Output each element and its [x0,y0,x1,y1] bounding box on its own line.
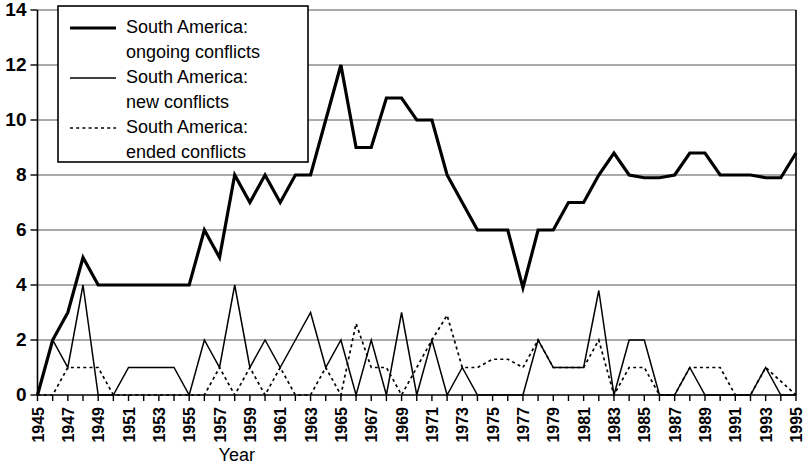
x-tick-label: 1947 [60,407,77,443]
x-tick-label: 1959 [242,407,259,443]
x-tick-label: 1985 [636,407,653,443]
x-axis-title: Year [219,445,255,465]
legend-label-line1: South America: [126,117,248,137]
x-tick-label: 1983 [606,407,623,443]
legend-label-line1: South America: [126,17,248,37]
x-tick-label: 1949 [90,407,107,443]
legend-label-line2: ongoing conflicts [126,42,260,62]
x-tick-label: 1977 [515,407,532,443]
legend-label-line1: South America: [126,67,248,87]
x-tick-label: 1995 [788,407,805,443]
x-tick-label: 1957 [212,407,229,443]
x-tick-label: 1973 [454,407,471,443]
legend-label-line2: ended conflicts [126,142,246,162]
y-tick-label: 10 [5,109,26,130]
y-tick-label: 14 [5,0,27,20]
x-tick-label: 1979 [545,407,562,443]
x-tick-label: 1971 [424,407,441,443]
y-tick-label: 8 [16,164,27,185]
x-tick-label: 1993 [758,407,775,443]
series-line-3 [38,315,797,395]
line-chart: 0246810121419451947194919511953195519571… [0,0,809,468]
x-tick-label: 1963 [303,407,320,443]
x-tick-label: 1955 [181,407,198,443]
y-tick-label: 12 [5,54,26,75]
x-tick-label: 1953 [151,407,168,443]
x-tick-label: 1945 [30,407,47,443]
y-tick-label: 4 [16,274,27,295]
y-tick-label: 2 [16,329,27,350]
x-tick-label: 1951 [121,407,138,443]
x-tick-label: 1967 [363,407,380,443]
x-tick-label: 1965 [333,407,350,443]
x-tick-label: 1981 [576,407,593,443]
x-tick-label: 1989 [697,407,714,443]
y-tick-label: 0 [16,384,27,405]
x-tick-label: 1975 [485,407,502,443]
x-tick-label: 1969 [394,407,411,443]
x-tick-label: 1991 [727,407,744,443]
y-tick-label: 6 [16,219,27,240]
legend-label-line2: new conflicts [126,92,229,112]
x-tick-label: 1961 [272,407,289,443]
chart-container: 0246810121419451947194919511953195519571… [0,0,809,468]
x-tick-label: 1987 [667,407,684,443]
